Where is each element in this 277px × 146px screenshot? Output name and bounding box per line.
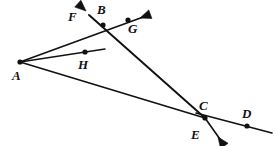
figure-canvas: ABCDEFGH: [0, 0, 277, 146]
point-label-a: A: [11, 68, 21, 83]
point-a-dot: [17, 59, 22, 64]
point-label-b: B: [96, 2, 106, 17]
point-label-g: G: [128, 21, 138, 36]
arrowhead-E-down: [218, 137, 228, 146]
ray-A-to-E: [20, 62, 205, 118]
arrowhead-G: [140, 10, 152, 19]
point-label-e: E: [190, 127, 200, 142]
segments-group: [20, 15, 272, 142]
line-F-through-B-to-E: [89, 15, 205, 118]
point-label-c: C: [199, 98, 208, 113]
point-d-dot: [244, 123, 249, 128]
labels-group: ABCDEFGH: [11, 2, 252, 142]
point-label-d: D: [241, 106, 252, 121]
ray-A-through-H: [20, 49, 105, 62]
point-c-dot: [202, 115, 207, 120]
geometry-figure: ABCDEFGH: [0, 0, 277, 146]
point-b-dot: [100, 22, 105, 27]
point-label-h: H: [77, 57, 89, 72]
line-E-to-past-D: [196, 113, 272, 133]
point-label-f: F: [67, 9, 77, 24]
point-h-dot: [82, 49, 87, 54]
